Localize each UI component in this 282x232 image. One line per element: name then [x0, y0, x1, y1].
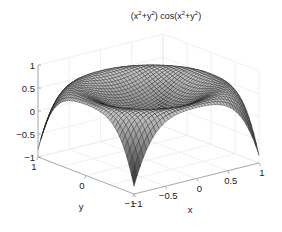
x-tick-label: 0.5	[224, 175, 237, 186]
z-tick-label: 0	[30, 106, 35, 117]
y-tick-label: −1	[125, 198, 136, 209]
z-tick-label: −1	[24, 152, 35, 163]
x-tick-label: 1	[259, 167, 264, 178]
x-axis-label: x	[188, 204, 193, 215]
z-tick-label: 1	[30, 60, 35, 71]
z-tick-label: 0.5	[22, 83, 35, 94]
surface-plot: (x2+y2) cos(x2+y2) −1−0.500.51−101−1−0.5…	[0, 0, 282, 232]
x-tick-label: −0.5	[159, 190, 178, 201]
z-tick-label: −0.5	[16, 129, 35, 140]
y-axis-label: y	[79, 201, 84, 212]
y-tick-label: 0	[79, 180, 84, 191]
x-tick-label: 0	[197, 183, 202, 194]
chart-title: (x2+y2) cos(x2+y2)	[131, 10, 201, 21]
y-tick-label: 1	[31, 161, 36, 172]
